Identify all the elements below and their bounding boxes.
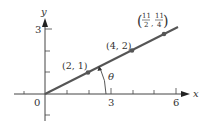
y-axis-label: y	[40, 6, 47, 17]
x-tick-label-3: 3	[108, 97, 114, 108]
point-11-2-11-4	[162, 32, 167, 37]
svg-text:,: ,	[151, 19, 154, 28]
x-axis-label: x	[193, 88, 199, 99]
x-tick-label-6: 6	[173, 97, 179, 108]
point-label-4-2: (4, 2)	[106, 40, 132, 51]
svg-text:): )	[163, 13, 168, 29]
x-axis-arrow-icon	[181, 91, 190, 97]
angle-theta-arc	[100, 68, 106, 94]
y-tick-label-3: 3	[35, 24, 41, 35]
x-axis	[14, 88, 190, 97]
y-axis	[42, 18, 52, 121]
frac-x-denominator: 2	[144, 21, 148, 29]
y-axis-arrow-icon	[42, 18, 48, 27]
frac-x-numerator: 11	[142, 12, 151, 20]
point-label-11-2-11-4: ( 11 2 , 11 4 )	[137, 12, 168, 29]
point-label-2-1: (2, 1)	[62, 60, 88, 71]
frac-y-denominator: 4	[157, 21, 162, 29]
coordinate-diagram: y x 0 3 6 3 (2, 1) (4, 2) ( 11 2 , 11 4 …	[0, 0, 208, 124]
angle-theta-label: θ	[108, 71, 114, 82]
origin-label: 0	[34, 97, 40, 108]
